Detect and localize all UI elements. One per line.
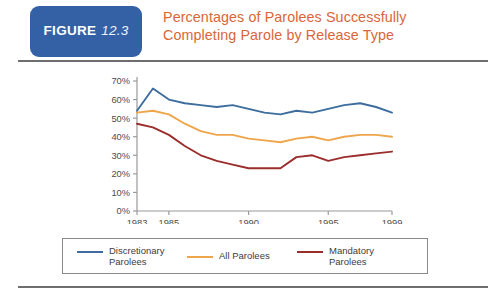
x-axis-tick-label: 1985 — [159, 218, 180, 225]
y-axis-tick-label: 60% — [111, 95, 130, 105]
legend-item-label: Discretionary Parolees — [109, 245, 173, 268]
legend-item: Discretionary Parolees — [77, 245, 173, 268]
y-axis-tick-label: 40% — [111, 132, 130, 142]
chart-plot-area: 0%10%20%30%40%50%60%70%19831985199019951… — [0, 66, 488, 224]
figure-badge-word: FIGURE — [44, 23, 97, 38]
series-line — [137, 88, 392, 114]
y-axis-tick-label: 0% — [117, 206, 130, 216]
line-chart-svg: 0%10%20%30%40%50%60%70%19831985199019951… — [0, 66, 488, 224]
figure-number-badge: FIGURE 12.3 — [30, 6, 142, 57]
legend-swatch-icon — [77, 251, 103, 253]
series-line — [137, 111, 392, 143]
legend-item-label: Mandatory Parolees — [329, 245, 393, 268]
legend-item: All Parolees — [187, 250, 283, 262]
footer-divider — [18, 286, 488, 288]
legend-swatch-icon — [187, 256, 213, 258]
x-axis-tick-label: 1990 — [238, 218, 259, 225]
figure-container: FIGURE 12.3 Percentages of Parolees Succ… — [0, 0, 488, 294]
legend-swatch-icon — [297, 251, 323, 253]
y-axis-tick-label: 20% — [111, 169, 130, 179]
header-divider — [18, 60, 488, 62]
legend-item: Mandatory Parolees — [297, 245, 393, 268]
figure-title-line-2: Completing Parole by Release Type — [163, 27, 473, 45]
figure-header: FIGURE 12.3 Percentages of Parolees Succ… — [0, 0, 488, 62]
chart-legend: Discretionary ParoleesAll ParoleesMandat… — [62, 238, 428, 274]
legend-item-label: All Parolees — [219, 250, 283, 262]
x-axis-tick-label: 1983 — [127, 218, 148, 225]
y-axis-tick-label: 50% — [111, 114, 130, 124]
y-axis-tick-label: 10% — [111, 188, 130, 198]
figure-title: Percentages of Parolees Successfully Com… — [163, 9, 473, 44]
series-line — [137, 124, 392, 169]
x-axis-tick-label: 1999 — [382, 218, 403, 225]
y-axis-tick-label: 30% — [111, 151, 130, 161]
figure-title-line-1: Percentages of Parolees Successfully — [163, 9, 473, 27]
figure-badge-number: 12.3 — [101, 23, 128, 38]
y-axis-tick-label: 70% — [111, 76, 130, 86]
x-axis-tick-label: 1995 — [318, 218, 339, 225]
